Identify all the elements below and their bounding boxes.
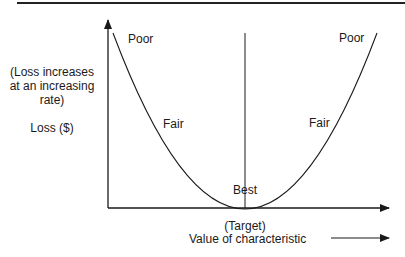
label-poor-right: Poor <box>339 31 364 45</box>
annotation-line-2: at an increasing <box>2 79 102 93</box>
annotation-line-3: rate) <box>2 93 102 107</box>
annotation-line-1: (Loss increases <box>2 65 102 79</box>
label-fair-right: Fair <box>309 116 330 130</box>
label-poor-left: Poor <box>128 32 153 46</box>
y-axis-annotation: (Loss increases at an increasing rate) <box>2 65 102 107</box>
x-axis-target-label: (Target) <box>195 219 295 233</box>
label-fair-left: Fair <box>163 117 184 131</box>
label-best: Best <box>233 183 257 197</box>
x-axis-label: Value of characteristic <box>189 232 306 246</box>
y-axis-label: Loss ($) <box>2 121 102 135</box>
